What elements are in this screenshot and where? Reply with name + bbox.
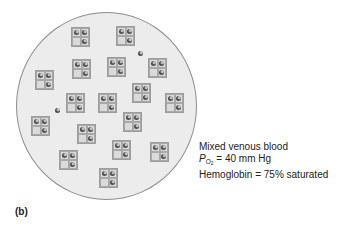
heme-site-bound — [69, 151, 78, 160]
heme-site-bound — [81, 28, 90, 37]
panel-label: (b) — [15, 206, 28, 217]
oxygen-molecule-icon — [70, 162, 75, 167]
heme-site-bound — [36, 71, 45, 80]
heme-site-bound — [158, 68, 167, 77]
heme-site-bound — [158, 59, 167, 68]
heme-site-bound — [81, 37, 90, 46]
heme-site-bound — [142, 93, 151, 102]
oxygen-molecule-icon — [69, 96, 74, 101]
heme-site-empty — [36, 80, 45, 89]
oxygen-molecule-icon — [168, 96, 173, 101]
heme-site-bound — [133, 122, 142, 131]
oxygen-molecule-icon — [101, 96, 106, 101]
hemoglobin-molecule — [71, 27, 90, 47]
heme-site-bound — [108, 58, 117, 67]
oxygen-molecule-icon — [77, 96, 82, 101]
hemoglobin-molecule — [148, 58, 167, 78]
hemoglobin-molecule — [72, 59, 91, 79]
oxygen-molecule-icon — [82, 30, 87, 35]
oxygen-molecule-icon — [62, 153, 67, 158]
oxygen-molecule-icon — [80, 127, 85, 132]
hemoglobin-molecule — [150, 142, 169, 162]
hemoglobin-molecule — [31, 116, 50, 136]
heme-site-bound — [76, 103, 85, 112]
caption: Mixed venous blood PO2 = 40 mm Hg Hemogl… — [199, 141, 328, 181]
oxygen-molecule-icon — [123, 143, 128, 148]
heme-site-bound — [117, 67, 126, 76]
oxygen-molecule-icon — [110, 180, 115, 185]
oxygen-molecule-icon — [135, 86, 140, 91]
hemoglobin-molecule — [112, 140, 131, 160]
heme-site-empty — [133, 93, 142, 102]
heme-site-bound — [117, 27, 126, 36]
heme-site-empty — [99, 103, 108, 112]
heme-site-bound — [109, 178, 118, 187]
heme-site-bound — [117, 58, 126, 67]
po2-value: = 40 mm Hg — [214, 153, 272, 164]
heme-site-bound — [126, 27, 135, 36]
oxygen-molecule-icon — [115, 143, 120, 148]
heme-site-bound — [109, 169, 118, 178]
oxygen-molecule-icon — [83, 62, 88, 67]
oxygen-molecule-icon — [74, 30, 79, 35]
oxygen-molecule-icon — [75, 62, 80, 67]
heme-site-bound — [73, 60, 82, 69]
heme-site-bound — [78, 125, 87, 134]
oxygen-molecule-icon — [127, 38, 132, 43]
hemoglobin-molecule — [165, 93, 184, 113]
heme-site-bound — [160, 152, 169, 161]
heme-site-empty — [60, 160, 69, 169]
heme-site-bound — [32, 117, 41, 126]
oxygen-molecule-icon — [161, 145, 166, 150]
oxygen-molecule-icon — [88, 136, 93, 141]
oxygen-molecule-icon — [176, 96, 181, 101]
heme-site-bound — [126, 36, 135, 45]
heme-site-bound — [45, 71, 54, 80]
heme-site-empty — [149, 68, 158, 77]
heme-site-bound — [160, 143, 169, 152]
hemoglobin-molecule — [98, 93, 117, 113]
oxygen-molecule-icon — [159, 70, 164, 75]
dissolved-oxygen-icon — [55, 108, 60, 113]
heme-site-empty — [108, 67, 117, 76]
heme-site-empty — [78, 134, 87, 143]
oxygen-molecule-icon — [110, 60, 115, 65]
oxygen-molecule-icon — [77, 105, 82, 110]
oxygen-molecule-icon — [42, 119, 47, 124]
heme-site-empty — [151, 152, 160, 161]
oxygen-molecule-icon — [70, 153, 75, 158]
heme-site-bound — [122, 141, 131, 150]
heme-site-bound — [113, 141, 122, 150]
heme-site-bound — [87, 125, 96, 134]
heme-site-bound — [166, 94, 175, 103]
oxygen-molecule-icon — [153, 145, 158, 150]
heme-site-bound — [133, 113, 142, 122]
oxygen-molecule-icon — [151, 61, 156, 66]
heme-site-bound — [67, 94, 76, 103]
heme-site-bound — [175, 94, 184, 103]
heme-site-bound — [99, 94, 108, 103]
heme-site-bound — [142, 84, 151, 93]
oxygen-molecule-icon — [109, 105, 114, 110]
oxygen-molecule-icon — [134, 124, 139, 129]
hemoglobin-molecule — [99, 168, 118, 188]
oxygen-molecule-icon — [46, 82, 51, 87]
oxygen-molecule-icon — [123, 152, 128, 157]
hemoglobin-molecule — [116, 26, 135, 46]
heme-site-bound — [69, 160, 78, 169]
oxygen-molecule-icon — [143, 86, 148, 91]
po2-symbol: P — [199, 153, 206, 164]
oxygen-molecule-icon — [83, 71, 88, 76]
oxygen-molecule-icon — [38, 73, 43, 78]
oxygen-molecule-icon — [109, 96, 114, 101]
oxygen-molecule-icon — [34, 119, 39, 124]
oxygen-molecule-icon — [46, 73, 51, 78]
heme-site-bound — [60, 151, 69, 160]
oxygen-molecule-icon — [42, 128, 47, 133]
dissolved-oxygen-icon — [138, 51, 143, 56]
oxygen-molecule-icon — [88, 127, 93, 132]
heme-site-bound — [133, 84, 142, 93]
oxygen-molecule-icon — [102, 171, 107, 176]
oxygen-molecule-icon — [159, 61, 164, 66]
hemoglobin-molecule — [123, 112, 142, 132]
